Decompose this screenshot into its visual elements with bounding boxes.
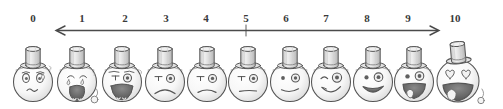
face-2	[103, 47, 142, 102]
face-5	[229, 47, 268, 102]
wailing-mouth	[69, 85, 84, 100]
face-10	[437, 41, 484, 104]
joy-flourish	[482, 89, 484, 97]
joy-bubble	[478, 97, 484, 103]
face-8	[354, 47, 393, 102]
face-3	[146, 47, 185, 102]
tongue	[447, 89, 456, 100]
face-7	[312, 47, 351, 102]
face-0	[14, 47, 53, 102]
face-1	[58, 47, 98, 103]
faces-row	[0, 0, 503, 109]
teardrop-bubble	[91, 96, 98, 103]
face-9	[395, 47, 434, 102]
tongue	[407, 89, 414, 98]
face-6	[271, 47, 310, 102]
rating-scale-diagram: 0 1 2 3 4 5 6 7 8 9 10	[0, 0, 503, 109]
face-4	[188, 47, 227, 102]
